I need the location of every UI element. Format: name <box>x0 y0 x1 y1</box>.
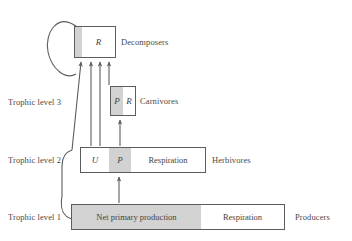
decomposers-gray-strip <box>75 27 82 57</box>
trophic-level-2-label: Trophic level 2 <box>8 155 61 165</box>
decomposers-group-label: Decomposers <box>121 37 168 47</box>
trophic-level-1-label: Trophic level 1 <box>8 212 61 222</box>
herbivores-production-segment: P <box>109 148 131 172</box>
energy-flow-diagram: Trophic level 3 Trophic level 2 Trophic … <box>0 0 352 241</box>
decomposers-respiration-segment: R <box>82 27 115 57</box>
producers-group-label: Producers <box>295 212 330 222</box>
decomposers-box: R <box>74 26 116 58</box>
carnivores-production-segment: P <box>111 87 123 115</box>
carnivores-respiration-segment: R <box>123 87 135 115</box>
herbivores-unassimilated-segment: U <box>81 148 109 172</box>
producers-net-primary-production-segment: Net primary production <box>72 205 201 229</box>
producers-to-decomposers-arrow <box>61 62 81 219</box>
herbivores-group-label: Herbivores <box>212 155 251 165</box>
herbivores-box: U P Respiration <box>80 147 206 173</box>
carnivores-group-label: Carnivores <box>140 96 178 106</box>
producers-respiration-segment: Respiration <box>201 205 284 229</box>
producers-box: Net primary production Respiration <box>71 204 285 230</box>
herbivores-respiration-segment: Respiration <box>131 148 205 172</box>
carnivores-box: P R <box>110 86 136 116</box>
trophic-level-3-label: Trophic level 3 <box>8 97 61 107</box>
